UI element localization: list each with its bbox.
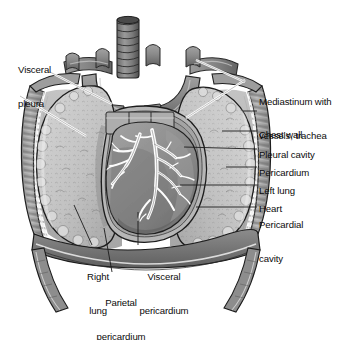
label-pericardial-cavity-line1: Pericardial [259, 219, 303, 230]
figure-caption-bar: Figure 24.2 [0, 304, 352, 340]
label-pericardial-cavity-line2: cavity [259, 253, 303, 264]
label-visceral-pleura-line2: pleura [18, 98, 51, 109]
label-visceral-pleura-line1: Visceral [18, 64, 51, 75]
figure-container: Visceral pleura Mediastinum with vessels… [0, 0, 352, 340]
trachea-graphic [117, 16, 139, 78]
label-visceral-pleura: Visceral pleura [18, 41, 51, 132]
label-pericardial-cavity: Pericardial cavity [259, 196, 303, 287]
